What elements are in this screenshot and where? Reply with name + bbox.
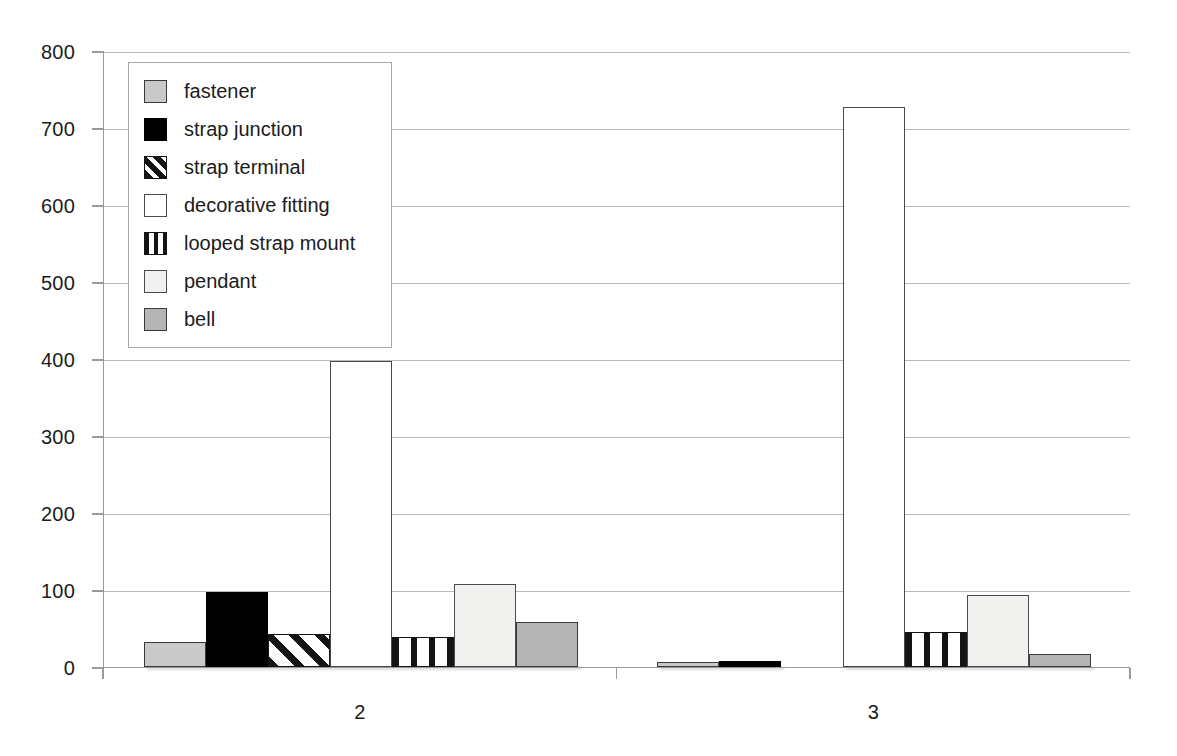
gridline [104, 514, 1130, 515]
bar-decorative-fitting-2[interactable] [330, 361, 392, 667]
legend-item-pendant[interactable]: pendant [129, 262, 391, 300]
legend-label: strap terminal [184, 157, 305, 177]
legend-item-strap-junction[interactable]: strap junction [129, 110, 391, 148]
y-tick-label: 100 [5, 581, 75, 601]
bar-pendant-2[interactable] [454, 584, 516, 667]
x-tick-mark [616, 668, 618, 679]
x-tick-label-3: 3 [868, 702, 879, 722]
bar-strap-terminal-2[interactable] [268, 634, 330, 667]
gridline [104, 437, 1130, 438]
y-tick-label: 500 [5, 273, 75, 293]
legend-item-looped-strap-mount[interactable]: looped strap mount [129, 224, 391, 262]
bar-decorative-fitting-3[interactable] [843, 107, 905, 667]
y-tick-label: 400 [5, 350, 75, 370]
legend-item-bell[interactable]: bell [129, 300, 391, 338]
gridline [104, 360, 1130, 361]
bar-bell-3[interactable] [1029, 654, 1091, 667]
bar-shadow [970, 667, 1032, 670]
bar-shadow [908, 667, 970, 670]
y-tick-label: 700 [5, 119, 75, 139]
legend-swatch-icon [144, 270, 167, 293]
bar-strap-junction-2[interactable] [206, 592, 268, 667]
legend-swatch-icon [144, 232, 167, 255]
y-tick-label: 200 [5, 504, 75, 524]
y-tick-label: 300 [5, 427, 75, 447]
legend-swatch-icon [144, 194, 167, 217]
legend-swatch-icon [144, 308, 167, 331]
bar-shadow [846, 667, 908, 670]
bar-pendant-3[interactable] [967, 595, 1029, 667]
bar-shadow [209, 667, 271, 670]
x-tick-mark [102, 668, 104, 679]
legend-item-fastener[interactable]: fastener [129, 72, 391, 110]
x-tick-mark [1129, 668, 1131, 679]
gridline [104, 52, 1130, 53]
bar-shadow [333, 667, 395, 670]
y-tick-label: 0 [5, 658, 75, 678]
legend-label: decorative fitting [184, 195, 330, 215]
bar-chart: 0100200300400500600700800 23 fastenerstr… [0, 0, 1177, 756]
legend-label: strap junction [184, 119, 303, 139]
bar-looped-strap-mount-3[interactable] [905, 632, 967, 667]
bar-shadow [457, 667, 519, 670]
chart-legend: fastenerstrap junctionstrap terminaldeco… [128, 62, 392, 348]
bar-shadow [519, 667, 581, 670]
legend-swatch-icon [144, 80, 167, 103]
bar-bell-2[interactable] [516, 622, 578, 667]
bar-fastener-3[interactable] [657, 662, 719, 667]
bar-shadow [395, 667, 457, 670]
legend-swatch-icon [144, 118, 167, 141]
bar-shadow [1032, 667, 1094, 670]
legend-label: bell [184, 309, 215, 329]
bar-shadow [660, 667, 722, 670]
bar-strap-junction-3[interactable] [719, 661, 781, 667]
bar-looped-strap-mount-2[interactable] [392, 637, 454, 667]
y-tick-label: 800 [5, 42, 75, 62]
legend-item-decorative-fitting[interactable]: decorative fitting [129, 186, 391, 224]
legend-swatch-icon [144, 156, 167, 179]
y-tick-label: 600 [5, 196, 75, 216]
bar-shadow [271, 667, 333, 670]
bar-shadow [722, 667, 784, 670]
legend-label: looped strap mount [184, 233, 355, 253]
legend-item-strap-terminal[interactable]: strap terminal [129, 148, 391, 186]
legend-label: pendant [184, 271, 256, 291]
legend-label: fastener [184, 81, 256, 101]
bar-shadow [147, 667, 209, 670]
x-tick-label-2: 2 [354, 702, 365, 722]
bar-fastener-2[interactable] [144, 642, 206, 667]
